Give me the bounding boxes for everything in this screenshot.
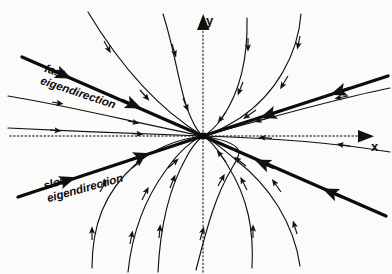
phase-portrait-canvas bbox=[0, 0, 392, 274]
fast-eigendirection-line-right bbox=[203, 136, 386, 216]
x-axis-label: x bbox=[371, 140, 378, 153]
traj-top-inner-curve bbox=[163, 14, 203, 136]
thin-trajectories bbox=[8, 12, 390, 272]
slow-eigendirection-line-right bbox=[203, 76, 388, 136]
axis-y bbox=[197, 14, 209, 272]
traj-top-right-curve-2 bbox=[203, 14, 301, 136]
traj-bottom-right-curve-1 bbox=[158, 136, 203, 272]
equilibrium-node bbox=[198, 132, 208, 139]
phase-portrait-figure: y x fast eigendirection slow eigendirect… bbox=[0, 0, 392, 274]
traj-upper-left-curve bbox=[88, 12, 203, 136]
flow-arrowheads bbox=[50, 36, 350, 244]
y-axis-label: y bbox=[206, 14, 213, 27]
traj-left-thin-2 bbox=[8, 128, 203, 136]
traj-right-thin-upper bbox=[203, 88, 390, 136]
